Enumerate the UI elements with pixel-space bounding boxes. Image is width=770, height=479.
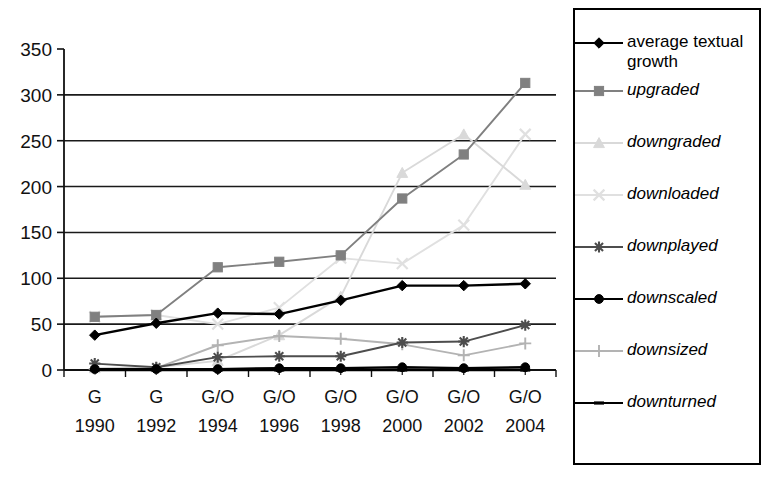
legend-marker-square-icon [575, 81, 627, 101]
data-point-marker [519, 337, 531, 349]
legend-item-downturned[interactable]: downturned [575, 392, 759, 413]
chart-page: 050100150200250300350G1990G1992G/O1994G/… [0, 0, 770, 479]
data-point-marker [336, 364, 345, 373]
x-axis-category-year: 1992 [136, 416, 176, 436]
data-point-marker [397, 280, 407, 290]
legend-label: downturned [627, 392, 716, 412]
x-axis-category-prefix: G [149, 387, 163, 407]
y-axis-tick-label: 150 [20, 222, 52, 243]
legend-label: average textual growth [627, 32, 755, 72]
data-point-marker [336, 251, 345, 260]
data-point-marker [520, 319, 531, 330]
data-point-marker [593, 345, 605, 357]
data-point-marker [398, 363, 407, 372]
legend-marker-dash-icon [575, 393, 627, 413]
data-point-marker [458, 336, 469, 347]
data-point-marker [459, 364, 468, 373]
data-point-marker [458, 220, 469, 231]
legend-marker-diamond-icon [575, 33, 627, 53]
y-axis-tick-label: 50 [31, 314, 52, 335]
data-point-marker [212, 339, 224, 351]
data-point-marker [275, 257, 284, 266]
x-axis-category-prefix: G/O [201, 387, 234, 407]
x-axis-category-prefix: G/O [263, 387, 296, 407]
data-point-marker [397, 337, 408, 348]
data-point-marker [90, 330, 100, 340]
legend-label: downscaled [627, 288, 717, 308]
data-point-marker [593, 241, 604, 252]
data-point-marker [520, 129, 531, 140]
data-point-marker [458, 349, 470, 361]
data-point-marker [594, 401, 604, 404]
legend-item-average-textual-growth[interactable]: average textual growth [575, 32, 759, 72]
legend-item-downplayed[interactable]: downplayed [575, 236, 759, 257]
legend-label: downloaded [627, 184, 719, 204]
legend-marker-asterisk-icon [575, 237, 627, 257]
line-chart: 050100150200250300350G1990G1992G/O1994G/… [0, 0, 566, 479]
legend-item-upgraded[interactable]: upgraded [575, 80, 759, 101]
data-point-marker [458, 129, 469, 139]
legend-marker-circle-icon [575, 289, 627, 309]
legend-item-downloaded[interactable]: downloaded [575, 184, 759, 205]
legend-marker-cross-x-icon [575, 185, 627, 205]
data-point-marker [213, 365, 222, 374]
x-axis-category-prefix: G/O [386, 387, 419, 407]
data-point-marker [275, 364, 284, 373]
x-axis-category-prefix: G/O [324, 387, 357, 407]
data-point-marker [521, 363, 530, 372]
series-line [95, 325, 526, 367]
y-axis-tick-label: 250 [20, 131, 52, 152]
series-line [95, 284, 526, 335]
data-point-marker [274, 351, 285, 362]
data-point-marker [213, 263, 222, 272]
x-axis-category-year: 2002 [444, 416, 484, 436]
x-axis-category-prefix: G [88, 387, 102, 407]
data-point-marker [595, 295, 604, 304]
data-point-marker [397, 167, 408, 177]
y-axis-tick-label: 200 [20, 177, 52, 198]
legend-label: upgraded [627, 80, 699, 100]
plot-area: 050100150200250300350G1990G1992G/O1994G/… [0, 0, 566, 479]
legend-label: downgraded [627, 132, 721, 152]
legend-item-downsized[interactable]: downsized [575, 340, 759, 361]
data-point-marker [398, 194, 407, 203]
data-point-marker [521, 78, 530, 87]
data-point-marker [520, 279, 530, 289]
data-point-marker [336, 295, 346, 305]
data-point-marker [213, 308, 223, 318]
x-axis-category-year: 1998 [321, 416, 361, 436]
x-axis-category-prefix: G/O [447, 387, 480, 407]
y-axis-tick-label: 100 [20, 268, 52, 289]
data-point-marker [90, 312, 99, 321]
data-point-marker [594, 38, 604, 48]
y-axis-tick-label: 350 [20, 39, 52, 60]
data-point-marker [335, 333, 347, 345]
x-axis-category-year: 2004 [505, 416, 545, 436]
data-point-marker [212, 352, 223, 363]
x-axis-category-year: 1994 [198, 416, 238, 436]
legend-marker-plus-icon [575, 341, 627, 361]
data-point-marker [90, 365, 99, 374]
legend-label: downsized [627, 340, 707, 360]
x-axis-category-year: 2000 [382, 416, 422, 436]
x-axis-category-prefix: G/O [509, 387, 542, 407]
legend-label: downplayed [627, 236, 718, 256]
legend-marker-triangle-icon [575, 133, 627, 153]
series-line [95, 134, 526, 368]
x-axis-category-year: 1996 [259, 416, 299, 436]
data-point-marker [594, 86, 603, 95]
data-point-marker [459, 280, 469, 290]
y-axis-tick-label: 300 [20, 85, 52, 106]
chart-legend: average textual growthupgradeddowngraded… [573, 8, 761, 465]
y-axis-tick-label: 0 [41, 360, 52, 381]
data-point-marker [335, 351, 346, 362]
series-average-textual-growth [90, 279, 531, 341]
x-axis-category-year: 1990 [75, 416, 115, 436]
data-point-marker [459, 150, 468, 159]
legend-item-downscaled[interactable]: downscaled [575, 288, 759, 309]
data-point-marker [152, 365, 161, 374]
legend-item-downgraded[interactable]: downgraded [575, 132, 759, 153]
